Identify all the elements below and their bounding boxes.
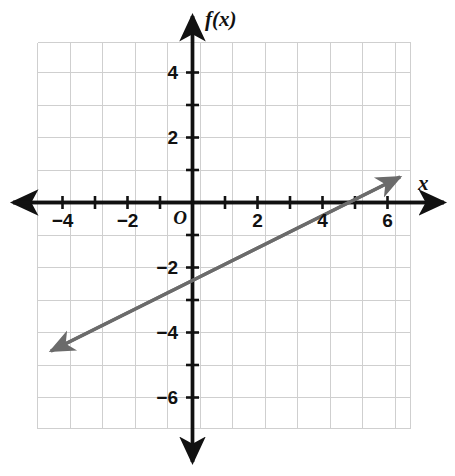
origin-label: O [173,207,187,228]
coordinate-plane-graph: −4 −2 2 4 6 4 2 −2 −4 −6 O f(x) x [0,0,455,476]
y-tick-label--2: −2 [156,257,178,278]
y-tick-label-2: 2 [167,127,178,148]
x-tick-label--2: −2 [117,210,139,231]
y-tick-label-4: 4 [167,62,178,83]
x-tick-label-6: 6 [382,210,393,231]
grid-lines [38,43,411,429]
y-tick-label--4: −4 [156,322,178,343]
x-tick-label-2: 2 [252,210,263,231]
axes [13,16,444,462]
y-axis-label: f(x) [205,7,236,31]
y-tick-label--6: −6 [156,387,178,408]
x-axis-label: x [417,171,429,195]
x-tick-label-4: 4 [317,210,328,231]
x-tick-label--4: −4 [52,210,74,231]
graph-canvas: −4 −2 2 4 6 4 2 −2 −4 −6 O f(x) x [0,0,455,476]
